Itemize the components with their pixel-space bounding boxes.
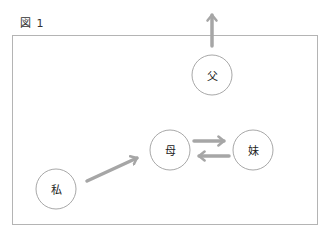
- node-me: 私: [36, 169, 76, 209]
- node-mother: 母: [150, 130, 190, 170]
- arrow-me-to-mother: [87, 158, 137, 181]
- node-sister-label: 妹: [248, 145, 259, 158]
- node-father-label: 父: [207, 70, 218, 83]
- node-father: 父: [192, 55, 232, 95]
- node-sister: 妹: [233, 130, 273, 170]
- node-mother-label: 母: [165, 145, 176, 158]
- family-diagram: 父 母 妹 私: [0, 0, 330, 239]
- node-me-label: 私: [51, 184, 62, 197]
